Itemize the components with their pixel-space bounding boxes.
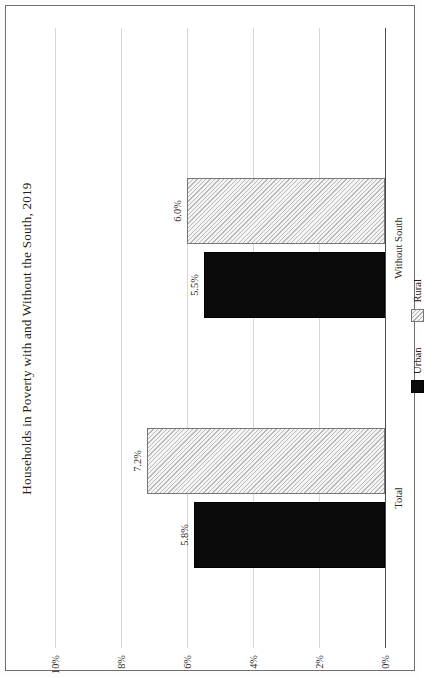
chart-legend: Urban Rural [411,278,424,392]
tick-label-8: 8% [115,655,126,669]
tick-label-6: 6% [181,655,192,669]
category-label-without-south: Without South [393,217,404,279]
legend-swatch-urban-icon [411,380,424,393]
bar-rural-without-south: 6.0% [187,178,385,244]
legend-swatch-rural-icon [411,308,424,321]
bar-value-label: 7.2% [132,450,143,472]
gridline-8 [121,28,122,648]
tick-label-10: 10% [49,655,60,674]
gridline-10 [55,28,56,648]
bar-rural-total: 7.2% [147,428,385,494]
gridline-6 [187,28,188,648]
bar-value-label: 5.5% [188,274,199,296]
bar-urban-without-south: 5.5% [203,252,385,318]
legend-item-rural: Rural [411,278,424,321]
category-label-total: Total [393,487,404,509]
chart-title: Households in Poverty with and Without t… [19,11,35,666]
bar-value-label: 6.0% [172,200,183,222]
chart-stage: Households in Poverty with and Without t… [13,11,408,666]
figure-border: Households in Poverty with and Without t… [5,5,415,671]
tick-label-0: 0% [379,655,390,669]
tick-label-4: 4% [247,655,258,669]
legend-item-urban: Urban [411,347,424,392]
bar-value-label: 5.8% [178,524,189,546]
legend-label-urban: Urban [412,347,423,373]
legend-label-rural: Rural [412,278,423,302]
plot-area: 0%2%4%6%8%10%5.8%7.2%Total5.5%6.0%Withou… [55,28,385,648]
bar-urban-total: 5.8% [193,502,384,568]
tick-label-2: 2% [313,655,324,669]
